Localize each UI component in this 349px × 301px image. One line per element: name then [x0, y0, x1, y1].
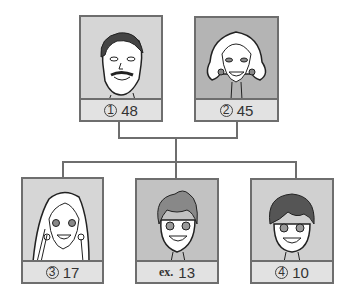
children-bar [62, 161, 297, 163]
child3-connector [62, 161, 64, 178]
person-label: 4 10 [252, 260, 332, 282]
number-marker: 4 [275, 266, 288, 279]
number-marker: 1 [104, 104, 117, 117]
person-card-2: 2 45 [194, 16, 279, 122]
age-value: 13 [178, 264, 195, 281]
number-marker: 2 [220, 104, 233, 117]
person-label: 3 17 [23, 260, 102, 282]
age-value: 17 [63, 264, 80, 281]
child4-connector [295, 161, 297, 178]
person-card-ex: ex. 13 [135, 178, 219, 284]
person-card-4: 4 10 [250, 178, 334, 284]
trunk-line [175, 137, 177, 178]
boy-portrait-icon [137, 180, 217, 262]
age-value: 10 [292, 264, 309, 281]
person-card-3: 3 17 [21, 177, 104, 284]
parents-bar [118, 137, 238, 139]
man-portrait-icon [81, 17, 161, 100]
young-boy-portrait-icon [252, 180, 332, 262]
example-marker: ex. [159, 265, 173, 280]
woman-portrait-icon [196, 18, 277, 100]
person-card-1: 1 48 [79, 15, 163, 122]
person-label: 2 45 [196, 98, 277, 120]
age-value: 48 [121, 102, 138, 119]
girl-portrait-icon [23, 179, 102, 262]
number-marker: 3 [46, 266, 59, 279]
age-value: 45 [237, 102, 254, 119]
person-label: ex. 13 [137, 260, 217, 282]
person-label: 1 48 [81, 98, 161, 120]
